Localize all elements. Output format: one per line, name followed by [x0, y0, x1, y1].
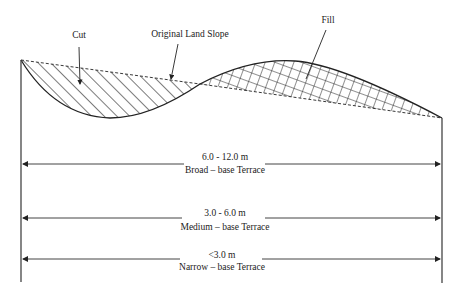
narrow-terrace-width: <3.0 m — [209, 250, 237, 260]
slope-leader-arrow — [171, 44, 178, 79]
medium-terrace-name: Medium – base Terrace — [180, 222, 269, 232]
cut-label: Cut — [72, 30, 86, 40]
narrow-terrace-dimension: <3.0 m Narrow – base Terrace — [22, 250, 441, 272]
broad-terrace-name: Broad – base Terrace — [185, 165, 265, 175]
terrace-cross-section-diagram: Cut Original Land Slope Fill 6.0 - 12.0 … — [0, 0, 461, 296]
medium-terrace-width: 3.0 - 6.0 m — [204, 208, 246, 218]
original-land-slope-label: Original Land Slope — [151, 29, 229, 39]
fill-label: Fill — [321, 15, 335, 25]
medium-terrace-dimension: 3.0 - 6.0 m Medium – base Terrace — [22, 208, 441, 232]
broad-terrace-dimension: 6.0 - 12.0 m Broad – base Terrace — [22, 152, 441, 175]
narrow-terrace-name: Narrow – base Terrace — [179, 262, 265, 272]
broad-terrace-width: 6.0 - 12.0 m — [202, 152, 249, 162]
